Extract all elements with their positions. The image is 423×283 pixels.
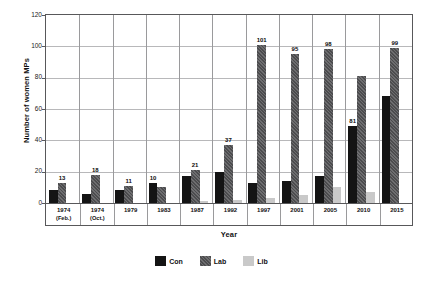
bar-lab <box>357 76 366 203</box>
women-mps-bar-chart: Number of women MPs 020406080100120 1318… <box>0 0 423 283</box>
x-axis-category: 1992 <box>213 204 246 225</box>
bar-group: 11 <box>113 15 146 203</box>
y-tick-label: 0 <box>16 200 42 207</box>
x-axis-category-year: 1974 <box>81 207 113 215</box>
x-axis-category-year: 1987 <box>181 207 213 215</box>
bar-group: 13 <box>46 15 79 203</box>
bar-value-label: 99 <box>386 40 404 46</box>
legend-label: Con <box>169 258 183 265</box>
y-tick-mark <box>42 15 45 16</box>
y-tick-label: 100 <box>16 43 42 50</box>
category-separator <box>179 15 180 203</box>
legend-label: Lab <box>214 258 226 265</box>
bar-lib <box>200 201 209 203</box>
category-separator <box>345 15 346 203</box>
x-axis-category: 1974(Oct.) <box>80 204 113 225</box>
category-separator <box>113 15 114 203</box>
bar-con <box>49 190 58 203</box>
bar-group: 21 <box>179 15 212 203</box>
bar-value-label: 13 <box>53 175 71 181</box>
category-separator <box>79 15 80 203</box>
y-tick-mark <box>42 78 45 79</box>
x-axis-category-sublabel: (Feb.) <box>47 215 80 222</box>
bar-lab <box>191 170 200 203</box>
x-axis-category: 1987 <box>180 204 213 225</box>
x-axis-category: 2005 <box>313 204 346 225</box>
category-separator <box>279 15 280 203</box>
x-axis-category: 2010 <box>346 204 379 225</box>
y-tick-mark <box>42 140 45 141</box>
x-axis-categories: 1974(Feb.)1974(Oct.)19791983198719921997… <box>45 204 413 226</box>
bar-group: 37 <box>212 15 245 203</box>
bar-group: 98 <box>312 15 345 203</box>
x-axis-category: 1979 <box>114 204 147 225</box>
chart-legend: ConLabLib <box>0 256 423 266</box>
y-tick-label: 80 <box>16 74 42 81</box>
x-axis-category-year: 2010 <box>347 207 379 215</box>
bar-group: 10 <box>146 15 179 203</box>
bar-lab <box>291 54 300 203</box>
y-axis-title: Number of women MPs <box>22 31 31 171</box>
bar-con <box>115 190 124 203</box>
bar-value-label: 10 <box>144 175 162 181</box>
bar-group: 18 <box>79 15 112 203</box>
x-axis-category: 1974(Feb.) <box>47 204 80 225</box>
bar-lib <box>266 198 275 203</box>
x-axis-category: 2001 <box>280 204 313 225</box>
bar-con <box>182 176 191 203</box>
bar-con <box>282 181 291 203</box>
x-axis-category: 2015 <box>380 204 413 225</box>
y-tick-mark <box>42 109 45 110</box>
bar-lab <box>390 48 399 203</box>
bar-con <box>82 194 91 203</box>
bar-value-label: 18 <box>87 167 105 173</box>
y-tick-mark <box>42 172 45 173</box>
legend-item-lib[interactable]: Lib <box>243 256 268 266</box>
bar-con <box>149 183 158 203</box>
legend-item-lab[interactable]: Lab <box>200 256 226 266</box>
category-separator <box>379 15 380 203</box>
bar-value-label: 37 <box>220 137 238 143</box>
bar-lib <box>366 192 375 203</box>
bar-group: 95 <box>279 15 312 203</box>
bar-con <box>315 176 324 203</box>
bar-lab <box>124 186 133 203</box>
bar-value-label: 95 <box>286 46 304 52</box>
bar-group: 101 <box>246 15 279 203</box>
bar-lib <box>333 187 342 203</box>
y-tick-label: 120 <box>16 12 42 19</box>
category-separator <box>246 15 247 203</box>
bar-lab <box>257 45 266 203</box>
legend-swatch-lib-icon <box>243 256 254 266</box>
y-tick-label: 40 <box>16 137 42 144</box>
bar-value-label: 101 <box>253 37 271 43</box>
x-axis-category-year: 2015 <box>381 207 413 215</box>
bar-lab <box>157 187 166 203</box>
legend-swatch-con-icon <box>155 256 166 266</box>
category-separator <box>212 15 213 203</box>
bars-layer: 13181110213710195988199 <box>46 15 412 203</box>
x-axis-category-year: 1979 <box>115 207 147 215</box>
bar-con <box>382 96 391 203</box>
y-tick-label: 60 <box>16 106 42 113</box>
x-axis-category-year: 1997 <box>248 207 280 215</box>
x-axis-category-year: 2001 <box>281 207 313 215</box>
x-axis-category-year: 1974 <box>47 207 80 215</box>
x-axis-category: 1983 <box>147 204 180 225</box>
x-axis-title: Year <box>45 230 413 239</box>
bar-lab <box>324 49 333 203</box>
bar-con <box>215 172 224 203</box>
x-axis-category-year: 1983 <box>148 207 180 215</box>
bar-lab <box>58 183 67 203</box>
category-separator <box>312 15 313 203</box>
x-axis-category-year: 2005 <box>314 207 346 215</box>
bar-con <box>248 183 257 203</box>
bar-lib <box>299 195 308 203</box>
y-tick-label: 20 <box>16 168 42 175</box>
bar-lib <box>233 200 242 203</box>
x-axis-category-year: 1992 <box>214 207 246 215</box>
legend-swatch-lab-icon <box>200 256 211 266</box>
bar-con <box>348 126 357 203</box>
legend-item-con[interactable]: Con <box>155 256 183 266</box>
bar-value-label: 21 <box>186 162 204 168</box>
